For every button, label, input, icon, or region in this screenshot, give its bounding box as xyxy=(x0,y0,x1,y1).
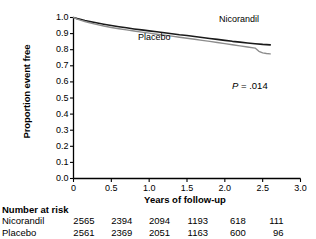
y-axis-tick-label: 0.8 xyxy=(43,45,69,54)
risk-cell: 96 xyxy=(250,227,284,238)
risk-cell: 1193 xyxy=(174,215,208,226)
risk-cell: 0 xyxy=(288,227,316,238)
risk-cell: 111 xyxy=(250,215,284,226)
risk-cell: 1163 xyxy=(174,227,208,238)
risk-cell: 2369 xyxy=(98,227,132,238)
x-axis-tick-label: 2.5 xyxy=(250,184,276,193)
x-axis-tick-label: 1.0 xyxy=(136,184,162,193)
x-axis-tick-label: 1.5 xyxy=(174,184,200,193)
risk-cell: 2565 xyxy=(61,215,95,226)
y-axis-tick-label: 0.9 xyxy=(43,29,69,38)
y-axis-tick-label: 0.3 xyxy=(43,126,69,135)
x-axis-tick-label: 0.5 xyxy=(98,184,124,193)
y-axis-tick-label: 0.7 xyxy=(43,61,69,70)
y-axis-tick-label: 0.2 xyxy=(43,142,69,151)
y-axis-tick-label: 0.6 xyxy=(43,77,69,86)
risk-cell: 618 xyxy=(212,215,246,226)
risk-cell: 2094 xyxy=(136,215,170,226)
series-label-nicorandil: Nicorandil xyxy=(219,14,259,24)
risk-row-label: Nicorandil xyxy=(2,215,44,226)
risk-cell: 600 xyxy=(212,227,246,238)
x-axis-tick-label: 2.0 xyxy=(212,184,238,193)
y-axis-title: Proportion event free xyxy=(21,17,32,167)
x-axis-tick-label: 0 xyxy=(61,184,87,193)
risk-cell: 0 xyxy=(288,215,316,226)
y-axis-tick-label: 0.1 xyxy=(43,158,69,167)
y-axis-tick-label: 1.0 xyxy=(43,13,69,22)
y-axis-tick-label: 0.4 xyxy=(43,110,69,119)
p-value-text: = .014 xyxy=(238,80,267,91)
risk-cell: 2051 xyxy=(136,227,170,238)
risk-cell: 2561 xyxy=(61,227,95,238)
y-axis-tick-label: 0.0 xyxy=(43,174,69,183)
survival-chart-figure: Proportion event free 0.00.10.20.30.40.5… xyxy=(0,0,315,239)
p-value-annotation: P = .014 xyxy=(232,80,268,91)
series-label-placebo: Placebo xyxy=(138,32,171,42)
risk-cell: 2394 xyxy=(98,215,132,226)
risk-table-row: Placebo2561236920511163600960 xyxy=(0,227,315,239)
risk-table-title: Number at risk xyxy=(2,204,69,215)
y-axis-tick-label: 0.5 xyxy=(43,94,69,103)
x-axis-title: Years of follow-up xyxy=(95,194,275,205)
x-axis-tick-label: 3.0 xyxy=(288,184,314,193)
risk-row-label: Placebo xyxy=(2,227,36,238)
